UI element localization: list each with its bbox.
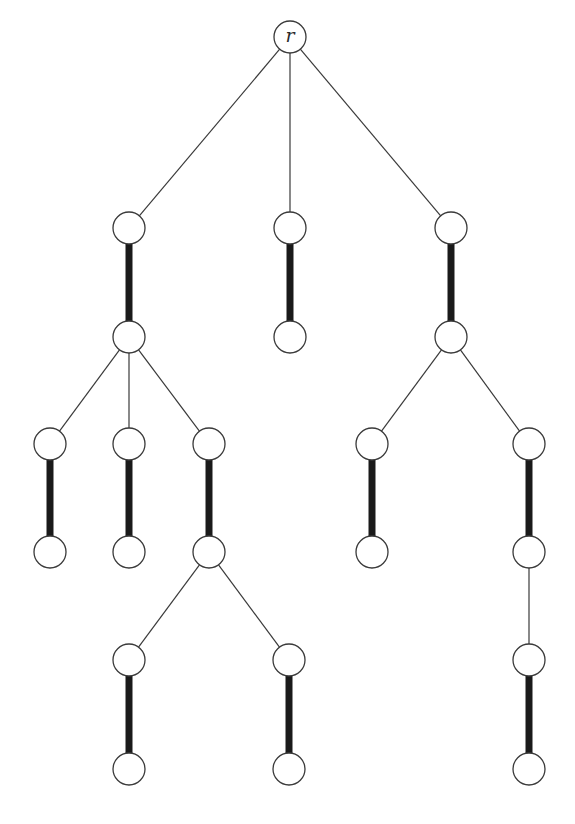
tree-node (113, 428, 145, 460)
node-circle (513, 536, 545, 568)
tree-edge (139, 565, 200, 647)
tree-node (513, 428, 545, 460)
node-circle (34, 536, 66, 568)
node-circle (513, 753, 545, 785)
tree-edge (300, 49, 440, 216)
node-circle (274, 212, 306, 244)
node-circle (356, 536, 388, 568)
tree-edge (460, 350, 519, 431)
tree-node (435, 321, 467, 353)
node-circle (113, 321, 145, 353)
node-circle (34, 428, 66, 460)
tree-node (113, 536, 145, 568)
node-circle (193, 428, 225, 460)
node-circle (273, 753, 305, 785)
tree-node (34, 536, 66, 568)
tree-node (513, 644, 545, 676)
tree-node (113, 644, 145, 676)
node-circle (113, 644, 145, 676)
tree-node (273, 753, 305, 785)
tree-node (113, 753, 145, 785)
node-circle (435, 321, 467, 353)
node-circle (513, 644, 545, 676)
node-circle (274, 321, 306, 353)
tree-edge (139, 49, 279, 216)
tree-edge (382, 350, 442, 431)
node-circle (113, 212, 145, 244)
tree-edge (139, 350, 200, 431)
tree-node (513, 536, 545, 568)
tree-diagram: r (0, 0, 575, 824)
tree-node (34, 428, 66, 460)
node-circle (356, 428, 388, 460)
tree-node (193, 428, 225, 460)
tree-node (513, 753, 545, 785)
node-circle (113, 428, 145, 460)
node-circle (193, 536, 225, 568)
tree-edge (60, 350, 120, 431)
tree-node (113, 321, 145, 353)
tree-node (356, 428, 388, 460)
tree-node (356, 536, 388, 568)
node-circle (113, 753, 145, 785)
node-circle (435, 212, 467, 244)
tree-node (113, 212, 145, 244)
root-node: r (274, 21, 306, 53)
node-circle (113, 536, 145, 568)
tree-node (274, 212, 306, 244)
node-circle (273, 644, 305, 676)
tree-edge (219, 565, 280, 647)
tree-node (273, 644, 305, 676)
tree-node (274, 321, 306, 353)
tree-node (193, 536, 225, 568)
node-circle (513, 428, 545, 460)
tree-node (435, 212, 467, 244)
